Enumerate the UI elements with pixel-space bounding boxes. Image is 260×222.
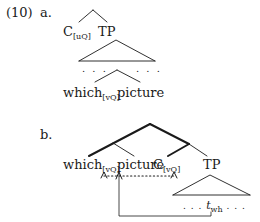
which-word: which xyxy=(63,157,102,172)
part-a-dots-left: . . . xyxy=(82,64,108,74)
triangle-b-tp xyxy=(173,175,250,195)
triangle-a-tp xyxy=(79,40,155,61)
part-b-which-node: which[vQ] xyxy=(63,158,120,174)
branch-b-c xyxy=(168,144,189,156)
c-head: C xyxy=(153,157,163,172)
part-a-c-node: C[uQ] xyxy=(63,25,91,41)
part-a-dots-right: . . . xyxy=(136,64,162,74)
branch-b-root-left xyxy=(89,124,150,156)
part-a-which-node: which[vQ] xyxy=(63,86,120,102)
branch-b-picture xyxy=(113,143,134,156)
part-b-trace: . . . twh . . . xyxy=(183,200,246,214)
branch-b-root-right xyxy=(150,124,189,144)
trace-dots-left: . . . xyxy=(183,201,206,211)
tree-diagram-lines xyxy=(0,0,260,222)
part-b-c-node: C[vQ] xyxy=(153,158,180,174)
which-word: which xyxy=(63,85,102,100)
c-feature: [vQ] xyxy=(163,165,180,174)
part-a-picture-node: picture xyxy=(117,86,164,99)
trace-sub: wh xyxy=(211,205,223,214)
c-feature: [uQ] xyxy=(73,32,91,41)
branch-b-tp xyxy=(189,144,207,156)
c-head: C xyxy=(63,24,73,39)
part-a-tp-node: TP xyxy=(98,25,115,38)
trace-dots-right: . . . xyxy=(223,201,246,211)
branch-a-c xyxy=(79,10,93,22)
part-b-tp-node: TP xyxy=(203,158,220,171)
branch-a-tp xyxy=(93,10,107,22)
